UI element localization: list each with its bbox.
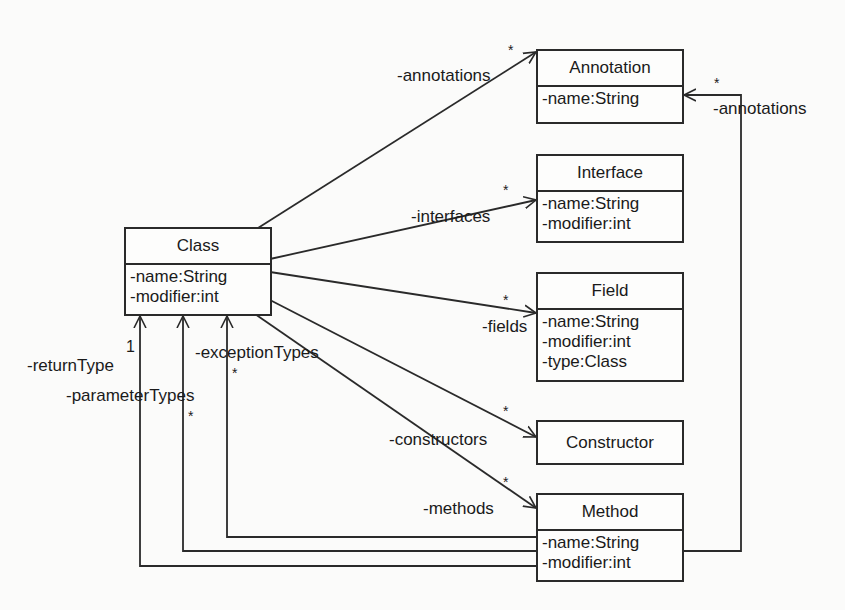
multiplicity-parameter-types: * <box>188 409 193 423</box>
class-box-class[interactable]: Class -name:String -modifier:int <box>124 227 272 316</box>
multiplicity-return-type: 1 <box>126 340 135 354</box>
multiplicity-exception-types: * <box>232 366 237 380</box>
assoc-line-fields <box>270 272 536 313</box>
role-label-constructors: -constructors <box>389 431 487 449</box>
class-attribute: -name:String <box>542 312 682 332</box>
class-name: Field <box>538 274 682 310</box>
multiplicity-method-annotations: * <box>714 76 719 90</box>
class-attribute: -name:String <box>542 533 682 553</box>
role-label-methods: -methods <box>423 500 494 518</box>
class-attribute: -type:Class <box>542 352 682 372</box>
class-attribute: -modifier:int <box>542 332 682 352</box>
class-attribute: -modifier:int <box>542 214 682 234</box>
role-label-parameter-types: -parameterTypes <box>66 387 195 405</box>
role-label-exception-types: -exceptionTypes <box>195 344 319 362</box>
role-label-annotations: -annotations <box>397 67 491 85</box>
class-attribute: -name:String <box>542 194 682 214</box>
class-attribute: -name:String <box>130 267 270 287</box>
class-box-annotation[interactable]: Annotation -name:String <box>536 49 684 124</box>
class-box-interface[interactable]: Interface -name:String -modifier:int <box>536 154 684 243</box>
class-box-constructor[interactable]: Constructor <box>536 420 684 465</box>
class-name: Constructor <box>538 422 682 463</box>
class-name: Class <box>126 229 270 265</box>
class-attribute: -name:String <box>542 89 682 109</box>
class-name: Method <box>538 495 682 531</box>
multiplicity-fields: * <box>503 293 508 307</box>
role-label-return-type: -returnType <box>27 357 114 375</box>
assoc-line-method-annotations <box>682 95 741 551</box>
multiplicity-methods: * <box>503 475 508 489</box>
class-name: Interface <box>538 156 682 192</box>
multiplicity-interfaces: * <box>503 183 508 197</box>
multiplicity-annotations: * <box>508 43 513 57</box>
class-attribute: -modifier:int <box>130 287 270 307</box>
multiplicity-constructors: * <box>503 404 508 418</box>
class-box-method[interactable]: Method -name:String -modifier:int <box>536 493 684 582</box>
class-name: Annotation <box>538 51 682 87</box>
assoc-line-interfaces <box>270 200 536 259</box>
role-label-method-annotations: -annotations <box>713 100 807 118</box>
class-attribute: -modifier:int <box>542 553 682 573</box>
role-label-interfaces: -interfaces <box>411 208 490 226</box>
role-label-fields: -fields <box>482 318 527 336</box>
class-box-field[interactable]: Field -name:String -modifier:int -type:C… <box>536 272 684 382</box>
